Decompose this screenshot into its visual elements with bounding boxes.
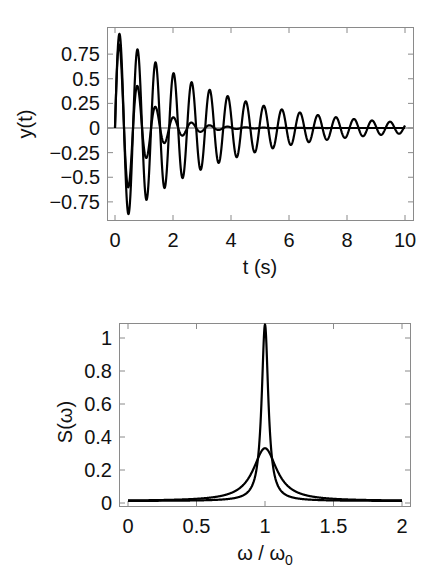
x-tick-label: 1.5 bbox=[320, 515, 348, 537]
y-tick-label: 0 bbox=[89, 117, 100, 139]
bottom-axis-ticks: 00.511.5200.20.40.60.81 bbox=[84, 324, 410, 537]
x-tick-label: 1 bbox=[259, 515, 270, 537]
y-tick-label: 0.8 bbox=[84, 360, 112, 382]
y-tick-label: 0.75 bbox=[61, 43, 100, 65]
time-response-plot: 02468100.750.50.250−0.25−0.5−0.75 t (s) … bbox=[14, 28, 416, 279]
curve-broad-resonance bbox=[128, 448, 402, 500]
y-tick-label: −0.5 bbox=[61, 166, 100, 188]
x-axis-label-top: t (s) bbox=[243, 256, 277, 278]
top-curves bbox=[115, 34, 405, 214]
x-tick-label: 4 bbox=[225, 229, 236, 251]
y-tick-label: −0.75 bbox=[49, 191, 100, 213]
x-tick-label: 8 bbox=[341, 229, 352, 251]
x-tick-label: 10 bbox=[394, 229, 416, 251]
figure: 02468100.750.50.250−0.25−0.5−0.75 t (s) … bbox=[0, 0, 433, 575]
y-tick-label: −0.25 bbox=[49, 142, 100, 164]
x-tick-label: 0 bbox=[109, 229, 120, 251]
y-tick-label: 0.4 bbox=[84, 426, 112, 448]
y-axis-label-top: y(t) bbox=[14, 110, 36, 139]
spectrum-plot: 00.511.5200.20.40.60.81 ω / ω0 S(ω) bbox=[54, 324, 411, 569]
y-axis-label-bottom: S(ω) bbox=[54, 401, 76, 443]
x-tick-label: 6 bbox=[283, 229, 294, 251]
x-axis-label-bottom: ω / ω0 bbox=[237, 542, 293, 568]
y-tick-label: 0.25 bbox=[61, 92, 100, 114]
x-tick-label: 2 bbox=[396, 515, 407, 537]
y-tick-label: 0.2 bbox=[84, 459, 112, 481]
x-tick-label: 2 bbox=[167, 229, 178, 251]
y-tick-label: 0 bbox=[101, 492, 112, 514]
plot-frame-bottom bbox=[120, 324, 411, 507]
y-tick-label: 1 bbox=[101, 327, 112, 349]
x-tick-label: 0.5 bbox=[183, 515, 211, 537]
x-tick-label: 0 bbox=[122, 515, 133, 537]
curve-narrow-resonance bbox=[128, 324, 402, 500]
y-tick-label: 0.6 bbox=[84, 393, 112, 415]
y-tick-label: 0.5 bbox=[72, 68, 100, 90]
bottom-curves bbox=[128, 324, 402, 500]
